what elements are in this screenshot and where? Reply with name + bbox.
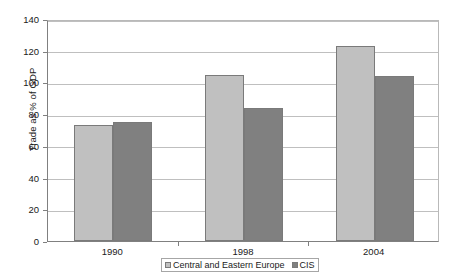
bar	[336, 46, 375, 241]
legend-item[interactable]: Central and Eastern Europe	[165, 260, 285, 270]
y-axis-tick-label: 0	[34, 236, 39, 247]
x-axis-label: 1998	[232, 246, 253, 257]
bar	[375, 76, 414, 241]
y-axis-tick-label: 80	[28, 109, 39, 120]
plot-area	[47, 20, 439, 242]
legend-item-label: Central and Eastern Europe	[173, 260, 285, 270]
y-axis-tick-label: 120	[23, 46, 39, 57]
x-axis-label: 1990	[102, 246, 123, 257]
y-axis-tick-label: 40	[28, 173, 39, 184]
bar	[74, 125, 113, 241]
legend-item-label: CIS	[300, 260, 315, 270]
y-axis-tick-label: 20	[28, 204, 39, 215]
bar-chart: Trade as % of GDP 020406080100120140 199…	[0, 0, 450, 278]
bar	[205, 75, 244, 242]
legend-swatch-icon	[292, 262, 298, 268]
legend-swatch-icon	[165, 262, 171, 268]
y-axis-tick-label: 60	[28, 141, 39, 152]
y-axis-ticks: 020406080100120140	[0, 20, 47, 242]
bar	[244, 108, 283, 241]
chart-legend: Central and Eastern EuropeCIS	[161, 258, 319, 272]
x-axis-label: 2004	[363, 246, 384, 257]
y-axis-tick-label: 100	[23, 77, 39, 88]
bars-layer	[48, 21, 438, 241]
y-axis-tick-label: 140	[23, 14, 39, 25]
bar	[113, 122, 152, 241]
legend-item[interactable]: CIS	[292, 260, 315, 270]
